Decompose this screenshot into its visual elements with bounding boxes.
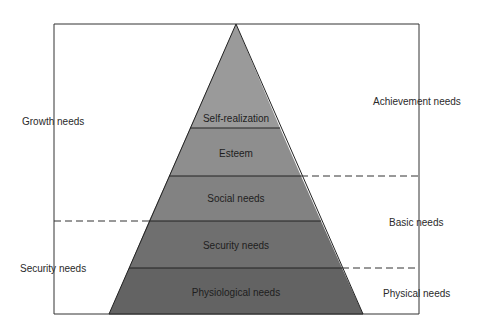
needs-pyramid-diagram: Self-realization Esteem Social needs Sec…	[0, 0, 483, 335]
layer-label-esteem: Esteem	[219, 148, 253, 159]
layer-label-social-needs: Social needs	[207, 193, 264, 204]
label-physical-needs: Physical needs	[383, 288, 450, 299]
label-growth-needs: Growth needs	[22, 116, 84, 127]
label-security-needs-left: Security needs	[20, 263, 86, 274]
label-achievement-needs: Achievement needs	[373, 96, 461, 107]
layer-label-security-needs: Security needs	[203, 240, 269, 251]
label-basic-needs: Basic needs	[389, 217, 443, 228]
layer-label-self-realization: Self-realization	[203, 113, 269, 124]
layer-label-physiological-needs: Physiological needs	[192, 287, 280, 298]
